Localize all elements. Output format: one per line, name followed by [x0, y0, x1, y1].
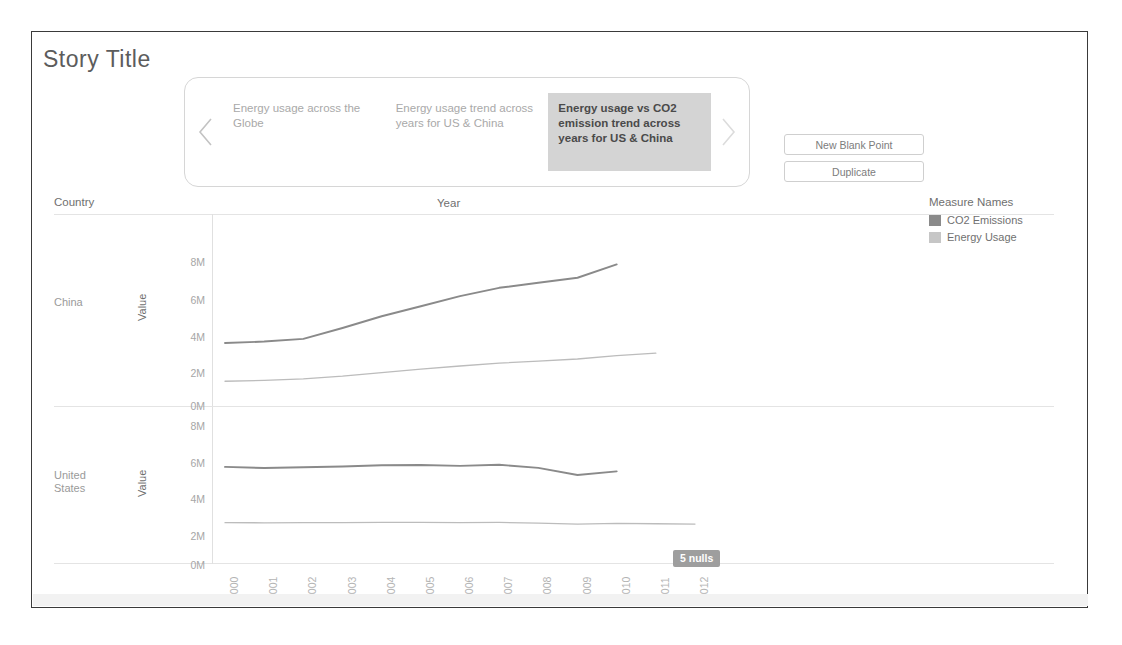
- story-point-list: Energy usage across the Globe Energy usa…: [223, 93, 711, 171]
- screenshot-root: Story Title Energy usage across the Glob…: [0, 0, 1122, 645]
- story-point-label: Energy usage trend across years for US &…: [396, 101, 541, 131]
- row-label-united-states-text: United States: [54, 469, 86, 494]
- y-tick-4m: 4M: [165, 493, 205, 505]
- story-point-actions: New Blank Point Duplicate: [784, 134, 924, 188]
- story-point-label: Energy usage across the Globe: [233, 101, 378, 131]
- new-blank-point-button[interactable]: New Blank Point: [784, 134, 924, 155]
- plot-united-states: [212, 407, 722, 564]
- y-axis-united-states: 8M 6M 4M 2M 0M: [160, 407, 205, 564]
- plot-china: [212, 214, 722, 406]
- line-energy-usage: [225, 522, 695, 524]
- new-blank-point-label: New Blank Point: [815, 139, 892, 151]
- year-column-header: Year: [437, 197, 460, 209]
- story-point-3-active[interactable]: Energy usage vs CO2 emission trend acros…: [548, 93, 711, 171]
- value-axis-title-china: Value: [136, 294, 148, 321]
- row-label-china: China: [54, 296, 114, 309]
- y-tick-2m: 2M: [165, 367, 205, 379]
- line-energy-usage: [225, 353, 656, 381]
- y-tick-6m: 6M: [165, 457, 205, 469]
- panel-china: China Value 8M 6M 4M 2M 0M: [32, 214, 722, 406]
- y-tick-8m: 8M: [165, 420, 205, 432]
- country-column-header: Country: [54, 196, 94, 208]
- panel-united-states: United States Value 8M 6M 4M 2M 0M: [32, 407, 722, 564]
- frame-bottom-strip: [33, 594, 1088, 606]
- story-point-label: Energy usage vs CO2 emission trend acros…: [558, 101, 703, 146]
- y-tick-4m: 4M: [165, 331, 205, 343]
- line-co2-emissions: [225, 465, 617, 475]
- y-tick-6m: 6M: [165, 294, 205, 306]
- duplicate-button[interactable]: Duplicate: [784, 161, 924, 182]
- line-co2-emissions: [225, 264, 617, 343]
- row-label-united-states: United States: [54, 469, 114, 495]
- y-tick-0m: 0M: [165, 559, 205, 571]
- story-point-1[interactable]: Energy usage across the Globe: [223, 93, 386, 171]
- y-tick-2m: 2M: [165, 530, 205, 542]
- page-title: Story Title: [43, 46, 151, 73]
- duplicate-label: Duplicate: [832, 166, 876, 178]
- story-frame: Story Title Energy usage across the Glob…: [31, 31, 1088, 608]
- value-axis-title-united-states: Value: [136, 470, 148, 497]
- story-point-2[interactable]: Energy usage trend across years for US &…: [386, 93, 549, 171]
- chart-area: Country Year China Value 8M 6M 4M 2M 0M: [32, 192, 1087, 602]
- story-point-navigator: Energy usage across the Globe Energy usa…: [184, 77, 750, 187]
- y-axis-china: 8M 6M 4M 2M 0M: [160, 214, 205, 406]
- chevron-left-icon[interactable]: [189, 115, 223, 149]
- chevron-right-icon[interactable]: [711, 115, 745, 149]
- y-tick-8m: 8M: [165, 256, 205, 268]
